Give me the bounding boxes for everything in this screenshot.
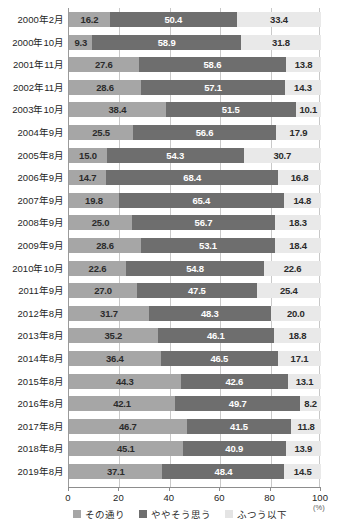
bar-row: 14.768.416.8	[69, 170, 319, 185]
legend-swatch-icon	[139, 510, 147, 518]
legend-label: ややそう思う	[151, 507, 211, 521]
bar-row: 46.741.511.8	[69, 419, 319, 434]
bar-segment: 9.3	[69, 35, 92, 50]
bar-segment: 17.1	[278, 351, 321, 366]
bar-row: 15.054.330.7	[69, 148, 319, 163]
legend-item[interactable]: ややそう思う	[139, 507, 211, 521]
y-axis-label: 2019年8月	[0, 464, 64, 479]
bar-segment: 42.1	[69, 396, 175, 411]
bar-segment: 16.2	[69, 12, 110, 27]
legend-item[interactable]: ふつう以下	[225, 507, 287, 521]
bar-row: 35.246.118.8	[69, 328, 319, 343]
y-axis-label: 2012年8月	[0, 306, 64, 321]
x-tick-mark	[219, 487, 220, 491]
bar-row: 44.342.613.1	[69, 374, 319, 389]
bar-segment: 25.0	[69, 215, 132, 230]
bar-segment: 16.8	[278, 170, 320, 185]
bar-segment: 28.6	[69, 80, 141, 95]
bar-row: 25.556.617.9	[69, 125, 319, 140]
chart-legend: その通りややそう思うふつう以下	[60, 506, 300, 522]
legend-swatch-icon	[73, 510, 81, 518]
bar-segment: 38.4	[69, 102, 166, 117]
bar-segment: 51.5	[166, 102, 296, 117]
y-axis-label: 2000年2月	[0, 12, 64, 27]
bar-segment: 40.9	[183, 441, 286, 456]
bar-row: 28.657.114.3	[69, 80, 319, 95]
bar-segment: 31.8	[241, 35, 321, 50]
bar-row: 42.149.78.2	[69, 396, 319, 411]
x-tick-label: 60	[214, 492, 225, 503]
bar-segment: 25.4	[257, 283, 321, 298]
bar-row: 22.654.822.6	[69, 261, 319, 276]
bar-segment: 65.4	[119, 193, 284, 208]
y-axis-label: 2015年8月	[0, 374, 64, 389]
y-axis-label: 2001年11月	[0, 57, 64, 72]
y-axis-label: 2006年9月	[0, 170, 64, 185]
bar-segment: 28.6	[69, 238, 141, 253]
y-axis-label: 2014年8月	[0, 351, 64, 366]
legend-label: その通り	[85, 507, 125, 521]
bar-row: 19.865.414.8	[69, 193, 319, 208]
y-axis-label: 2004年9月	[0, 125, 64, 140]
y-axis-label: 2013年8月	[0, 328, 64, 343]
bar-segment: 17.9	[276, 125, 321, 140]
y-axis-label: 2000年10月	[0, 35, 64, 50]
bar-row: 16.250.433.4	[69, 12, 319, 27]
bar-segment: 8.2	[300, 396, 321, 411]
x-tick-mark	[270, 487, 271, 491]
y-axis-label: 2007年9月	[0, 193, 64, 208]
bar-segment: 57.1	[141, 80, 285, 95]
x-tick-mark	[169, 487, 170, 491]
bar-segment: 48.3	[149, 306, 271, 321]
stacked-bar-chart: 2000年2月2000年10月2001年11月2002年11月2003年10月2…	[0, 0, 339, 527]
bar-segment: 11.8	[291, 419, 321, 434]
y-axis-label: 2017年8月	[0, 419, 64, 434]
y-axis-label: 2016年8月	[0, 396, 64, 411]
bar-segment: 22.6	[264, 261, 321, 276]
bar-segment: 14.3	[285, 80, 321, 95]
x-tick-label: 40	[164, 492, 175, 503]
y-axis-label: 2010年10月	[0, 261, 64, 276]
bar-segment: 56.7	[132, 215, 275, 230]
bar-segment: 68.4	[106, 170, 278, 185]
bar-segment: 25.5	[69, 125, 133, 140]
bar-row: 36.446.517.1	[69, 351, 319, 366]
legend-swatch-icon	[225, 510, 233, 518]
legend-label: ふつう以下	[237, 507, 287, 521]
y-axis-label: 2011年9月	[0, 283, 64, 298]
y-axis-label: 2018年8月	[0, 441, 64, 456]
bar-row: 31.748.320.0	[69, 306, 319, 321]
bar-segment: 13.8	[286, 57, 321, 72]
plot-area: 16.250.433.49.358.931.827.658.613.828.65…	[68, 8, 320, 487]
bar-segment: 18.4	[275, 238, 321, 253]
legend-item[interactable]: その通り	[73, 507, 125, 521]
bar-segment: 47.5	[137, 283, 257, 298]
bar-segment: 30.7	[244, 148, 321, 163]
bar-segment: 15.0	[69, 148, 107, 163]
bar-row: 9.358.931.8	[69, 35, 319, 50]
bar-segment: 35.2	[69, 328, 158, 343]
bar-segment: 44.3	[69, 374, 181, 389]
x-tick-mark	[118, 487, 119, 491]
bar-segment: 18.3	[275, 215, 321, 230]
bar-segment: 58.9	[92, 35, 240, 50]
bar-rows: 16.250.433.49.358.931.827.658.613.828.65…	[69, 8, 319, 487]
bar-segment: 14.8	[284, 193, 321, 208]
bar-segment: 14.7	[69, 170, 106, 185]
bar-row: 27.047.525.4	[69, 283, 319, 298]
bar-row: 38.451.510.1	[69, 102, 319, 117]
bar-segment: 46.5	[161, 351, 278, 366]
x-tick-mark	[68, 487, 69, 491]
bar-segment: 13.9	[286, 441, 321, 456]
y-axis-label: 2008年9月	[0, 215, 64, 230]
y-axis-label: 2009年9月	[0, 238, 64, 253]
bar-segment: 37.1	[69, 464, 162, 479]
x-tick-label: 20	[113, 492, 124, 503]
bar-row: 25.056.718.3	[69, 215, 319, 230]
x-tick-label: 80	[264, 492, 275, 503]
bar-row: 27.658.613.8	[69, 57, 319, 72]
bar-segment: 18.8	[274, 328, 321, 343]
y-axis-label: 2002年11月	[0, 80, 64, 95]
y-axis-label: 2005年8月	[0, 148, 64, 163]
bar-segment: 22.6	[69, 261, 126, 276]
